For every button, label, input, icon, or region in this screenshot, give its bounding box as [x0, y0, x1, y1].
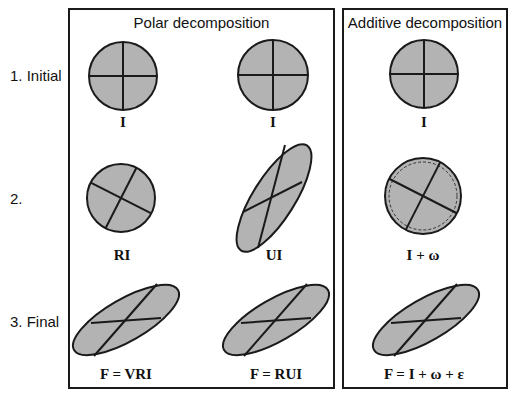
label-r3c2: F = RUI — [216, 366, 336, 383]
label-r2c1: RI — [62, 247, 182, 264]
label-r1c3: I — [364, 114, 484, 131]
label-r1c1: I — [63, 114, 183, 131]
stretched-ellipse-ui — [223, 134, 324, 261]
initial-circle-polar-2 — [238, 40, 308, 110]
initial-circle-additive — [390, 40, 458, 108]
label-r3c1: F = VRI — [66, 366, 186, 383]
final-ellipse-vri — [64, 272, 189, 368]
rotated-circle-i-plus-omega — [372, 145, 474, 247]
label-r1c2: I — [213, 114, 333, 131]
final-ellipse-additive — [364, 272, 489, 368]
initial-circle-polar-1 — [89, 42, 157, 110]
label-r2c2: UI — [214, 247, 334, 264]
final-ellipse-rui — [214, 272, 339, 368]
shapes-canvas — [0, 0, 516, 395]
rotated-circle-ri — [75, 152, 166, 243]
decomposition-diagram: Polar decomposition Additive decompositi… — [0, 0, 516, 395]
label-r3c3: F = I + ω + ε — [364, 366, 484, 383]
label-r2c3: I + ω — [363, 247, 483, 264]
